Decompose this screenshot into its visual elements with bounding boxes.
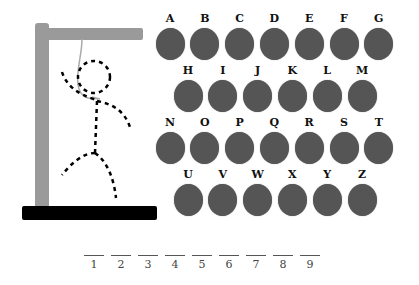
letter-key-button[interactable] — [364, 132, 393, 164]
letter-key-button[interactable] — [295, 132, 324, 164]
letter-key-button[interactable] — [364, 28, 393, 60]
letter-key-s[interactable]: S — [329, 116, 359, 164]
letter-key-label: Y — [323, 168, 331, 182]
letter-key-label: K — [288, 64, 298, 78]
slot-number: 7 — [246, 258, 266, 271]
letter-key-l[interactable]: L — [312, 64, 342, 112]
letter-key-button[interactable] — [278, 184, 307, 216]
letter-key-button[interactable] — [174, 184, 203, 216]
letter-key-label: E — [305, 12, 313, 26]
letter-key-n[interactable]: N — [155, 116, 185, 164]
letter-key-r[interactable]: R — [294, 116, 324, 164]
letter-key-button[interactable] — [260, 132, 289, 164]
letter-key-button[interactable] — [208, 184, 237, 216]
word-slot: 2 — [111, 255, 131, 271]
letter-key-q[interactable]: Q — [259, 116, 289, 164]
letter-key-button[interactable] — [190, 28, 219, 60]
letter-key-label: H — [183, 64, 193, 78]
word-slot: 9 — [300, 255, 320, 271]
word-slot: 1 — [84, 255, 104, 271]
letter-key-j[interactable]: J — [243, 64, 273, 112]
letter-key-h[interactable]: H — [173, 64, 203, 112]
letter-key-button[interactable] — [313, 80, 342, 112]
letter-key-w[interactable]: W — [243, 168, 273, 216]
letter-key-b[interactable]: B — [190, 12, 220, 60]
slot-underline — [111, 255, 131, 256]
letter-key-e[interactable]: E — [294, 12, 324, 60]
letter-key-button[interactable] — [278, 80, 307, 112]
letter-key-label: O — [200, 116, 210, 130]
letter-key-label: W — [251, 168, 263, 182]
letter-key-button[interactable] — [208, 80, 237, 112]
letter-key-label: C — [235, 12, 244, 26]
letter-key-m[interactable]: M — [347, 64, 377, 112]
letter-key-button[interactable] — [243, 80, 272, 112]
slot-number: 2 — [111, 258, 131, 271]
letter-key-label: G — [374, 12, 383, 26]
slot-underline — [300, 255, 320, 256]
right-arm — [97, 101, 130, 127]
letter-key-button[interactable] — [156, 132, 185, 164]
letter-key-button[interactable] — [174, 80, 203, 112]
letter-key-label: A — [166, 12, 175, 26]
letter-key-v[interactable]: V — [208, 168, 238, 216]
letter-key-button[interactable] — [190, 132, 219, 164]
letter-key-label: N — [165, 116, 175, 130]
hangman-figure — [0, 0, 160, 230]
letter-key-button[interactable] — [330, 132, 359, 164]
letter-key-button[interactable] — [330, 28, 359, 60]
letter-key-button[interactable] — [348, 80, 377, 112]
letter-key-label: B — [200, 12, 209, 26]
letter-key-button[interactable] — [156, 28, 185, 60]
slot-number: 1 — [84, 258, 104, 271]
letter-key-button[interactable] — [260, 28, 289, 60]
letter-key-label: P — [235, 116, 243, 130]
letter-key-button[interactable] — [243, 184, 272, 216]
word-slot: 4 — [165, 255, 185, 271]
letter-key-u[interactable]: U — [173, 168, 203, 216]
letter-key-button[interactable] — [295, 28, 324, 60]
letter-key-label: T — [375, 116, 383, 130]
letter-key-label: U — [183, 168, 193, 182]
word-slot: 7 — [246, 255, 266, 271]
slot-underline — [273, 255, 293, 256]
letter-key-t[interactable]: T — [364, 116, 394, 164]
letter-key-button[interactable] — [348, 184, 377, 216]
letter-key-label: R — [305, 116, 314, 130]
letter-key-o[interactable]: O — [190, 116, 220, 164]
letter-key-button[interactable] — [225, 28, 254, 60]
slot-underline — [165, 255, 185, 256]
letter-key-c[interactable]: C — [225, 12, 255, 60]
slot-number: 5 — [192, 258, 212, 271]
word-slot: 8 — [273, 255, 293, 271]
letter-key-p[interactable]: P — [225, 116, 255, 164]
letter-key-label: D — [270, 12, 280, 26]
letter-key-label: I — [220, 64, 225, 78]
slot-underline — [192, 255, 212, 256]
letter-key-label: V — [219, 168, 228, 182]
word-slot: 6 — [219, 255, 239, 271]
letter-key-z[interactable]: Z — [347, 168, 377, 216]
letter-key-label: L — [323, 64, 331, 78]
slot-number: 4 — [165, 258, 185, 271]
letter-key-d[interactable]: D — [259, 12, 289, 60]
slot-underline — [84, 255, 104, 256]
letter-key-label: Q — [270, 116, 280, 130]
letter-key-i[interactable]: I — [208, 64, 238, 112]
slot-number: 3 — [138, 258, 158, 271]
letter-key-f[interactable]: F — [329, 12, 359, 60]
letter-key-label: Z — [358, 168, 366, 182]
slot-underline — [219, 255, 239, 256]
letter-key-button[interactable] — [313, 184, 342, 216]
slot-number: 8 — [273, 258, 293, 271]
letter-key-a[interactable]: A — [155, 12, 185, 60]
left-leg — [62, 153, 95, 175]
letter-key-k[interactable]: K — [277, 64, 307, 112]
letter-key-y[interactable]: Y — [312, 168, 342, 216]
letter-key-x[interactable]: X — [277, 168, 307, 216]
slot-underline — [246, 255, 266, 256]
slot-number: 9 — [300, 258, 320, 271]
torso — [95, 101, 97, 153]
letter-key-g[interactable]: G — [364, 12, 394, 60]
letter-key-button[interactable] — [225, 132, 254, 164]
